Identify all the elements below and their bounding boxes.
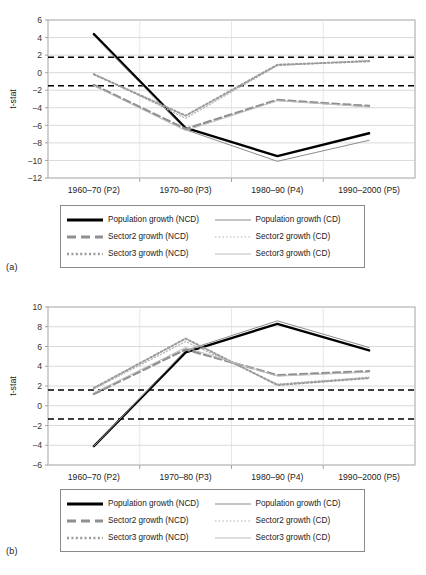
legend-key-solid-thin-lightgray [213, 248, 253, 260]
panel-b: 1086420−2−4−61960–70 (P2)1970–80 (P3)198… [0, 287, 426, 575]
svg-text:−4: −4 [32, 103, 42, 113]
svg-text:−12: −12 [27, 173, 42, 183]
panel-a-label: (a) [6, 262, 18, 272]
legend-key-solid-thin-gray [213, 214, 253, 226]
svg-text:−6: −6 [32, 121, 42, 131]
chart-b-area: 1086420−2−4−61960–70 (P2)1970–80 (P3)198… [0, 287, 426, 487]
chart-b-svg: 1086420−2−4−61960–70 (P2)1970–80 (P3)198… [0, 287, 426, 487]
legend-row: Population growth (NCD)Population growth… [65, 495, 360, 512]
panel-a: 6420−2−4−6−8−10−121960–70 (P2)1970–80 (P… [0, 0, 426, 287]
svg-text:1980–90 (P4): 1980–90 (P4) [251, 185, 303, 195]
legend-label: Sector3 growth (NCD) [105, 533, 189, 542]
legend-item-dashed-thick-gray[interactable]: Sector2 growth (NCD) [65, 515, 213, 527]
legend-label: Sector2 growth (CD) [253, 232, 331, 241]
legend-item-dotted-thick-gray[interactable]: Sector3 growth (NCD) [65, 532, 213, 544]
svg-text:6: 6 [37, 342, 42, 352]
legend-label: Sector2 growth (CD) [253, 516, 331, 525]
svg-text:1980–90 (P4): 1980–90 (P4) [251, 472, 303, 482]
svg-text:10: 10 [32, 302, 42, 312]
legend-label: Sector2 growth (NCD) [105, 516, 189, 525]
legend-key-dotted-thick-gray [65, 248, 105, 260]
svg-text:4: 4 [37, 33, 42, 43]
legend-row: Sector2 growth (NCD)Sector2 growth (CD) [65, 512, 360, 529]
chart-a-area: 6420−2−4−6−8−10−121960–70 (P2)1970–80 (P… [0, 0, 426, 200]
legend-item-solid-thin-gray[interactable]: Population growth (CD) [213, 498, 361, 510]
legend-a: Population growth (NCD)Population growth… [60, 205, 365, 268]
svg-text:t-stat: t-stat [8, 376, 18, 396]
legend-label: Sector3 growth (NCD) [105, 249, 189, 258]
legend-item-solid-thick-black[interactable]: Population growth (NCD) [65, 498, 213, 510]
legend-key-dashed-thick-gray [65, 515, 105, 527]
legend-label: Sector3 growth (CD) [253, 249, 331, 258]
legend-label: Sector2 growth (NCD) [105, 232, 189, 241]
legend-key-dotted-thin-gray [213, 231, 253, 243]
svg-text:4: 4 [37, 361, 42, 371]
svg-text:−4: −4 [32, 440, 42, 450]
svg-text:0: 0 [37, 68, 42, 78]
legend-item-dashed-thick-gray[interactable]: Sector2 growth (NCD) [65, 231, 213, 243]
legend-item-solid-thin-lightgray[interactable]: Sector3 growth (CD) [213, 248, 361, 260]
svg-text:2: 2 [37, 381, 42, 391]
svg-text:8: 8 [37, 322, 42, 332]
panel-b-label: (b) [6, 546, 18, 556]
legend-key-solid-thin-gray [213, 498, 253, 510]
svg-text:1970–80 (P3): 1970–80 (P3) [160, 472, 212, 482]
legend-item-solid-thick-black[interactable]: Population growth (NCD) [65, 214, 213, 226]
legend-key-solid-thick-black [65, 214, 105, 226]
legend-item-dotted-thin-gray[interactable]: Sector2 growth (CD) [213, 231, 361, 243]
svg-text:6: 6 [37, 15, 42, 25]
svg-text:1960–70 (P2): 1960–70 (P2) [68, 185, 120, 195]
svg-text:1970–80 (P3): 1970–80 (P3) [160, 185, 212, 195]
legend-key-dotted-thin-gray [213, 515, 253, 527]
legend-b: Population growth (NCD)Population growth… [60, 489, 365, 552]
legend-row: Sector3 growth (NCD)Sector3 growth (CD) [65, 245, 360, 262]
svg-text:0: 0 [37, 401, 42, 411]
figure-container: 6420−2−4−6−8−10−121960–70 (P2)1970–80 (P… [0, 0, 426, 575]
svg-text:−8: −8 [32, 138, 42, 148]
legend-key-solid-thin-lightgray [213, 532, 253, 544]
svg-text:1990–2000 (P5): 1990–2000 (P5) [338, 472, 400, 482]
legend-row: Sector3 growth (NCD)Sector3 growth (CD) [65, 529, 360, 546]
legend-label: Sector3 growth (CD) [253, 533, 331, 542]
legend-label: Population growth (NCD) [105, 499, 199, 508]
svg-text:−6: −6 [32, 460, 42, 470]
legend-label: Population growth (CD) [253, 499, 341, 508]
legend-item-dotted-thin-gray[interactable]: Sector2 growth (CD) [213, 515, 361, 527]
svg-text:−2: −2 [32, 85, 42, 95]
svg-text:1990–2000 (P5): 1990–2000 (P5) [338, 185, 400, 195]
svg-text:2: 2 [37, 50, 42, 60]
svg-text:t-stat: t-stat [8, 89, 18, 109]
legend-label: Population growth (NCD) [105, 215, 199, 224]
legend-row: Sector2 growth (NCD)Sector2 growth (CD) [65, 228, 360, 245]
svg-text:−10: −10 [27, 156, 42, 166]
legend-row: Population growth (NCD)Population growth… [65, 211, 360, 228]
svg-text:1960–70 (P2): 1960–70 (P2) [68, 472, 120, 482]
legend-item-solid-thin-gray[interactable]: Population growth (CD) [213, 214, 361, 226]
chart-a-svg: 6420−2−4−6−8−10−121960–70 (P2)1970–80 (P… [0, 0, 426, 200]
legend-item-solid-thin-lightgray[interactable]: Sector3 growth (CD) [213, 532, 361, 544]
svg-text:−2: −2 [32, 421, 42, 431]
legend-key-solid-thick-black [65, 498, 105, 510]
legend-item-dotted-thick-gray[interactable]: Sector3 growth (NCD) [65, 248, 213, 260]
legend-key-dashed-thick-gray [65, 231, 105, 243]
legend-key-dotted-thick-gray [65, 532, 105, 544]
legend-label: Population growth (CD) [253, 215, 341, 224]
